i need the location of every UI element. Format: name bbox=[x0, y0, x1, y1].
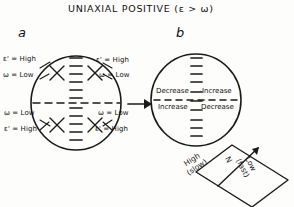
figure-canvas: UNIAXIAL POSITIVE (ε > ω) a b ε' = High … bbox=[0, 0, 294, 207]
transition-arrow bbox=[128, 99, 152, 109]
isogyre-vertical-b bbox=[191, 58, 202, 136]
label-b-lower-right: Decrease bbox=[201, 104, 234, 111]
label-b-lower-left: Increase bbox=[158, 104, 188, 111]
label-lower-left-omega: ω = Low bbox=[4, 110, 35, 117]
vibration-cross-marks-a bbox=[50, 66, 102, 132]
label-upper-right-epsilon: ε' = High bbox=[96, 57, 129, 64]
figure-linework bbox=[0, 0, 294, 207]
panel-b-label: b bbox=[176, 26, 184, 39]
isogyre-vertical-a bbox=[70, 58, 82, 140]
label-b-upper-left: Decrease bbox=[156, 88, 189, 95]
label-upper-right-omega: ω = Low bbox=[99, 72, 130, 79]
label-lower-left-epsilon: ε' = High bbox=[4, 126, 37, 133]
label-b-upper-right: Increase bbox=[202, 88, 232, 95]
panel-a-label: a bbox=[18, 26, 26, 39]
label-upper-left-epsilon: ε' = High bbox=[3, 56, 36, 63]
label-upper-left-omega: ω = Low bbox=[3, 72, 34, 79]
figure-title: UNIAXIAL POSITIVE (ε > ω) bbox=[68, 4, 214, 14]
label-lower-right-epsilon: ε' = High bbox=[95, 126, 128, 133]
label-lower-right-omega: ω = Low bbox=[98, 110, 129, 117]
